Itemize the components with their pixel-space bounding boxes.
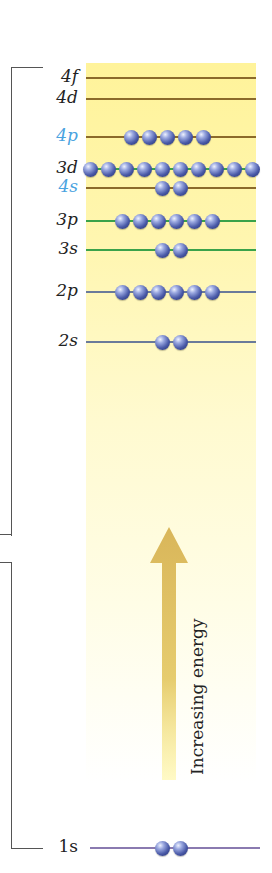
electron-icon	[119, 162, 134, 177]
level-label-2p: 2p	[56, 282, 78, 299]
electron-icon	[124, 130, 139, 145]
level-label-1s: 1s	[58, 838, 78, 855]
electron-icon	[178, 130, 193, 145]
level-line-4f	[86, 77, 256, 79]
electron-icon	[173, 243, 188, 258]
electron-icon	[227, 162, 242, 177]
electron-icon	[151, 214, 166, 229]
electron-icon	[155, 162, 170, 177]
increasing-energy-arrow-icon	[148, 525, 192, 783]
electron-icon	[115, 285, 130, 300]
electron-icon	[155, 335, 170, 350]
electron-icon	[155, 243, 170, 258]
electron-icon	[187, 285, 202, 300]
electron-icon	[155, 841, 170, 856]
electron-icon	[173, 162, 188, 177]
electron-icon	[160, 130, 175, 145]
electron-icon	[187, 214, 202, 229]
upper-bracket-foot	[0, 534, 12, 535]
level-line-2s	[86, 341, 256, 343]
electron-icon	[137, 162, 152, 177]
level-label-3s: 3s	[58, 240, 78, 257]
upper-bracket	[11, 67, 43, 536]
electron-icon	[151, 285, 166, 300]
electron-icon	[155, 181, 170, 196]
electron-icon	[115, 214, 130, 229]
level-line-3s	[86, 249, 256, 251]
lower-bracket	[11, 562, 43, 849]
electron-icon	[142, 130, 157, 145]
level-label-4d: 4d	[56, 89, 78, 106]
electron-icon	[209, 162, 224, 177]
level-line-4d	[86, 98, 256, 100]
electron-icon	[173, 181, 188, 196]
electron-icon	[245, 162, 260, 177]
electron-icon	[133, 214, 148, 229]
electron-icon	[83, 162, 98, 177]
arrow-label: Increasing energy	[187, 618, 207, 775]
level-label-4f: 4f	[61, 68, 78, 85]
level-label-3d: 3d	[56, 159, 78, 176]
electron-icon	[196, 130, 211, 145]
electron-icon	[173, 841, 188, 856]
electron-icon	[191, 162, 206, 177]
electron-icon	[133, 285, 148, 300]
level-label-3p: 3p	[56, 211, 78, 228]
electron-icon	[173, 335, 188, 350]
level-label-4p: 4p	[56, 127, 78, 144]
electron-icon	[205, 214, 220, 229]
electron-icon	[169, 285, 184, 300]
level-line-4s	[86, 187, 256, 189]
electron-icon	[169, 214, 184, 229]
electron-icon	[205, 285, 220, 300]
level-label-4s: 4s	[58, 178, 78, 195]
electron-icon	[101, 162, 116, 177]
level-label-2s: 2s	[58, 332, 78, 349]
